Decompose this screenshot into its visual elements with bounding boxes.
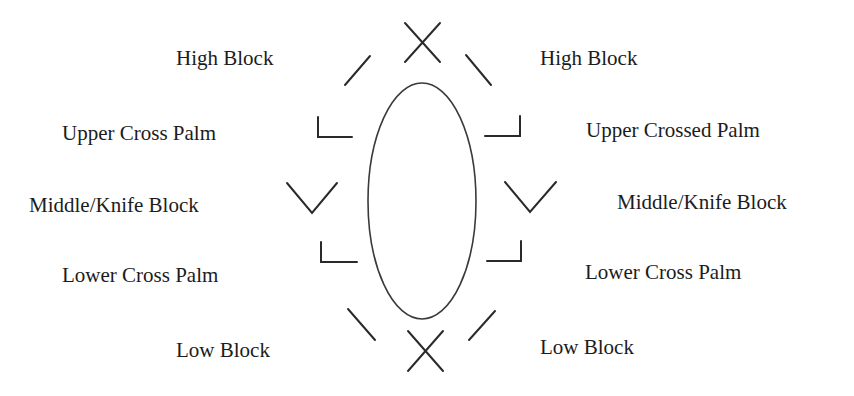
top-x-icon — [405, 23, 440, 62]
body-ellipse — [368, 83, 476, 319]
middle-right-v-icon — [505, 182, 556, 212]
left-upper-cross-palm-label: Upper Cross Palm — [62, 121, 216, 145]
lower-right-bracket-icon — [487, 241, 521, 261]
right-low-block-label: Low Block — [540, 335, 634, 359]
right-middle-knife-block-label: Middle/Knife Block — [617, 190, 787, 214]
high-block-right-slash-icon — [466, 55, 491, 85]
bottom-x-icon — [408, 331, 443, 371]
lower-left-bracket-icon — [321, 242, 357, 262]
left-lower-cross-palm-label: Lower Cross Palm — [62, 263, 218, 287]
right-lower-cross-palm-label: Lower Cross Palm — [585, 260, 741, 284]
high-block-left-slash-icon — [345, 56, 370, 85]
blocking-diagram: High Block Upper Cross Palm Middle/Knife… — [0, 0, 854, 396]
low-block-right-slash-icon — [469, 311, 495, 340]
left-high-block-label: High Block — [176, 46, 273, 70]
middle-left-v-icon — [287, 183, 337, 213]
low-block-left-slash-icon — [348, 309, 375, 340]
upper-left-bracket-icon — [318, 117, 352, 137]
upper-right-bracket-icon — [485, 116, 520, 136]
left-middle-knife-block-label: Middle/Knife Block — [29, 193, 199, 217]
right-high-block-label: High Block — [540, 46, 637, 70]
left-low-block-label: Low Block — [176, 338, 270, 362]
right-upper-crossed-palm-label: Upper Crossed Palm — [586, 118, 760, 142]
